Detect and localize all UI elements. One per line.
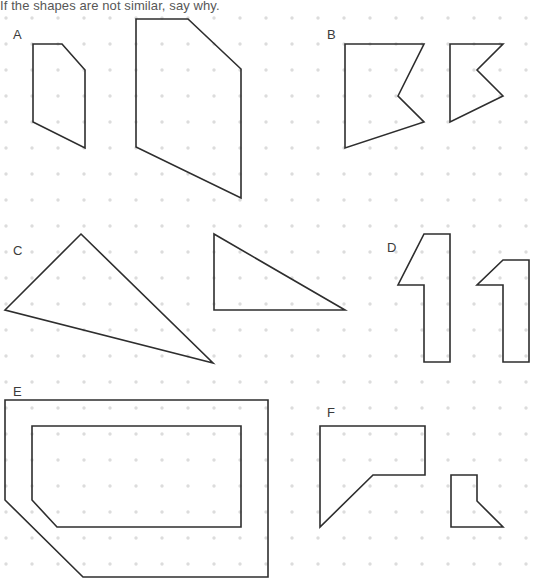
shape-E-pentagon-inner bbox=[32, 426, 241, 527]
shape-D-digit-one-small bbox=[477, 260, 529, 362]
shape-D-digit-one-large bbox=[398, 234, 450, 362]
shape-group-B bbox=[345, 44, 503, 148]
shape-group-E bbox=[5, 400, 268, 577]
shape-C-triangle-right bbox=[214, 234, 345, 310]
shape-label-A: A bbox=[13, 28, 22, 41]
shape-label-C: C bbox=[13, 244, 22, 257]
shape-C-triangle-obtuse bbox=[5, 234, 213, 363]
shape-label-F: F bbox=[327, 406, 335, 419]
shape-B-arrow-notch-large bbox=[345, 44, 424, 148]
shape-F-chevron-large bbox=[320, 426, 425, 527]
shape-B-arrow-notch-small bbox=[450, 44, 503, 122]
worksheet-page: If the shapes are not similar, say why. … bbox=[0, 0, 538, 581]
shape-group-C bbox=[5, 234, 345, 363]
shape-label-E: E bbox=[13, 385, 22, 398]
shape-group-D bbox=[398, 234, 529, 362]
shape-A-pentagon-large bbox=[136, 19, 241, 198]
shape-label-D: D bbox=[387, 241, 396, 254]
shape-label-B: B bbox=[327, 28, 336, 41]
shape-group-A bbox=[33, 19, 241, 198]
shape-A-pentagon-small bbox=[33, 44, 85, 148]
shape-F-chevron-small bbox=[451, 475, 503, 527]
shape-group-F bbox=[320, 426, 503, 527]
shapes-layer bbox=[0, 0, 538, 581]
